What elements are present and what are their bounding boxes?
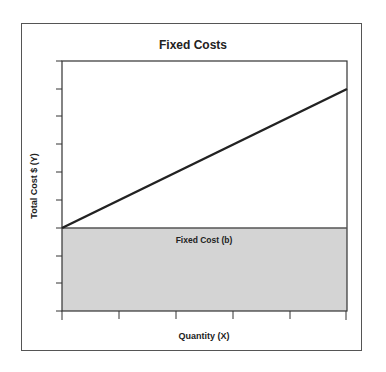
y-axis-label: Total Cost $ (Y): [29, 153, 39, 218]
x-axis-ticks: [62, 311, 346, 320]
fixed-cost-label: Fixed Cost (b): [62, 235, 346, 245]
total-cost-line: [62, 89, 347, 228]
y-axis-ticks: [56, 61, 62, 311]
x-axis-label: Quantity (X): [62, 331, 346, 341]
chart-plot: [0, 0, 386, 372]
chart-title: Fixed Costs: [0, 38, 386, 52]
